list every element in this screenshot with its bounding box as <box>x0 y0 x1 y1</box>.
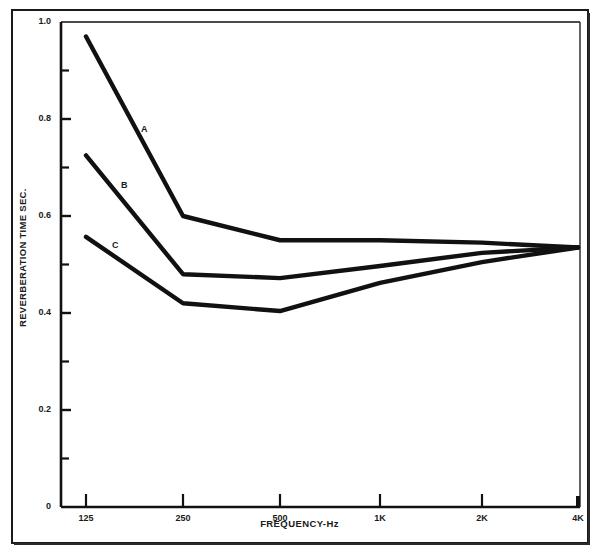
y-tick-label-1.0: 1.0 <box>17 16 51 26</box>
series-label-B: B <box>121 180 128 190</box>
series-line-A <box>86 37 578 248</box>
y-tick-label-0.4: 0.4 <box>17 307 51 317</box>
y-tick-label-0: 0 <box>17 501 51 511</box>
x-tick-label-1K: 1K <box>360 513 400 523</box>
x-tick-label-125: 125 <box>66 513 106 523</box>
y-tick-label-0.6: 0.6 <box>17 210 51 220</box>
y-tick-label-0.2: 0.2 <box>17 404 51 414</box>
x-tick-label-4K: 4K <box>558 513 598 523</box>
x-tick-label-2K: 2K <box>462 513 502 523</box>
chart-plot-area: REVERBERATION TIME SEC. FREQUENCY-Hz 00.… <box>0 0 599 558</box>
x-tick-label-250: 250 <box>163 513 203 523</box>
x-tick-label-500: 500 <box>260 513 300 523</box>
y-tick-label-0.8: 0.8 <box>17 113 51 123</box>
series-label-C: C <box>112 240 119 250</box>
series-label-A: A <box>141 124 148 134</box>
reverberation-time-line-chart <box>0 0 599 558</box>
